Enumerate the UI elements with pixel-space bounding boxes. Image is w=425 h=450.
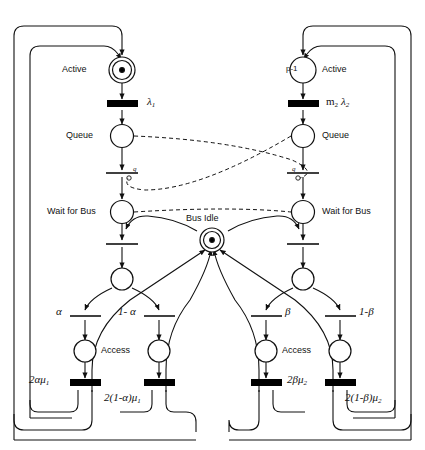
label-m2-lambda-2: m2λ2 [326,96,349,109]
label-wait-right: Wait for Bus [322,207,371,216]
label-queue-right: Queue [322,131,349,140]
label-beta: β [285,306,290,317]
label-bus-idle: Bus Idle [186,214,219,223]
label-rate-2alpha-mu1: 2αμ1 [29,374,49,387]
label-rate-2-1mbeta-mu2: 2(1-β)μ2 [345,392,382,405]
rate-2alpha-mu-sub: 1 [46,379,50,387]
transition-right-rate-a [251,379,282,386]
transition-right-rate-b [325,379,356,386]
label-access-left: Access [101,346,130,355]
rate-1malpha-sub: 1 [137,397,141,405]
inhibitor-arcs [127,136,308,212]
right-branch-arcs [266,288,340,378]
m-symbol: m [326,95,335,107]
label-q-right: q [292,166,296,173]
label-p-minus-1: p-1 [286,65,298,73]
transition-left-rate-a [70,379,101,386]
label-active-left: Active [62,65,87,74]
petri-net-diagram: Active Active p-1 λ1 m2λ2 Queue Queue q … [0,0,425,450]
transition-left-rate-b [144,379,175,386]
label-one-minus-alpha: 1- α [118,306,136,317]
left-branch-arcs [85,288,159,378]
rate-2beta-mu-sub: 2 [304,379,308,387]
label-q-left: q [133,166,137,173]
rate-1mbeta-text: 2(1-β)μ [345,391,378,403]
rate-2alpha-mu-text: 2αμ [29,373,46,385]
lambda2-subscript: 2 [346,101,350,109]
label-active-right: Active [322,65,347,74]
label-rate-2beta-mu2: 2βμ2 [287,374,307,387]
label-access-right: Access [282,346,311,355]
label-rate-2-1malpha-mu1: 2(1-α)μ1 [104,392,141,405]
rate-2beta-mu-text: 2βμ [287,373,304,385]
label-alpha: α [56,306,62,317]
rate-1mbeta-sub: 2 [378,397,382,405]
label-one-minus-beta: 1-β [359,306,374,317]
label-wait-left: Wait for Bus [47,207,96,216]
transition-right-lambda [288,100,319,107]
label-queue-left: Queue [66,131,93,140]
right-outer-frame [229,26,411,440]
right-feedback-arcs [229,390,411,432]
rate-1malpha-text: 2(1-α)μ [104,391,137,403]
lambda2-symbol: λ [338,95,346,107]
label-lambda-1: λ1 [147,96,155,109]
lambda-subscript: 1 [152,101,156,109]
minus-one-text: -1 [290,64,297,73]
transition-left-lambda [107,100,138,107]
